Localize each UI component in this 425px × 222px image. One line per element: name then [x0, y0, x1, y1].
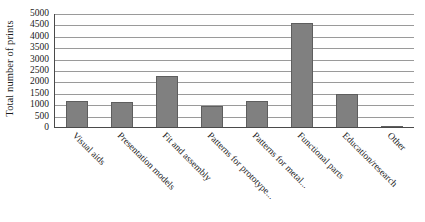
- bar: [336, 94, 358, 128]
- bar: [66, 101, 88, 128]
- plot-area: [54, 14, 414, 128]
- y-tick-label: 3000: [30, 55, 49, 65]
- y-tick-label: 5000: [30, 9, 49, 19]
- y-axis-tick-labels: 5000450040003500300025002000150010005000: [18, 14, 51, 128]
- y-tick-label: 2500: [30, 66, 49, 76]
- y-axis-line: [54, 14, 55, 128]
- x-tick-label: Other: [385, 131, 407, 153]
- x-tick-slot: Fit and assembly: [144, 129, 189, 222]
- bar-series: [54, 14, 414, 128]
- y-tick-label: 0: [44, 123, 49, 133]
- y-tick-label: 500: [35, 112, 49, 122]
- x-tick-slot: Other: [369, 129, 414, 222]
- bar-slot: [144, 14, 189, 128]
- y-axis-title-text: Total number of prints: [4, 20, 15, 116]
- x-tick-slot: Patterns for metal...: [234, 129, 279, 222]
- x-tick-slot: Patterns for prototype...: [189, 129, 234, 222]
- bar: [156, 76, 178, 128]
- x-tick-slot: Presentation models: [99, 129, 144, 222]
- bar-slot: [279, 14, 324, 128]
- bar-slot: [54, 14, 99, 128]
- bar: [111, 102, 133, 128]
- x-axis-tick-labels: Visual aidsPresentation modelsFit and as…: [54, 129, 414, 222]
- x-tick-slot: Education/research: [324, 129, 369, 222]
- y-tick-label: 1000: [30, 100, 49, 110]
- bar-slot: [324, 14, 369, 128]
- y-tick-label: 4500: [30, 21, 49, 31]
- y-axis-title: Total number of prints: [0, 0, 18, 136]
- bar-slot: [189, 14, 234, 128]
- y-tick-label: 2000: [30, 78, 49, 88]
- bar: [291, 23, 313, 128]
- y-tick-label: 3500: [30, 43, 49, 53]
- bar-chart-figure: Total number of prints 50004500400035003…: [0, 0, 425, 222]
- bar: [201, 106, 223, 128]
- x-axis-line: [54, 127, 414, 128]
- y-tick-label: 1500: [30, 89, 49, 99]
- x-tick-slot: Functional parts: [279, 129, 324, 222]
- bar-slot: [369, 14, 414, 128]
- bar-slot: [234, 14, 279, 128]
- bar-slot: [99, 14, 144, 128]
- y-tick-label: 4000: [30, 32, 49, 42]
- x-tick-slot: Visual aids: [54, 129, 99, 222]
- bar: [246, 101, 268, 128]
